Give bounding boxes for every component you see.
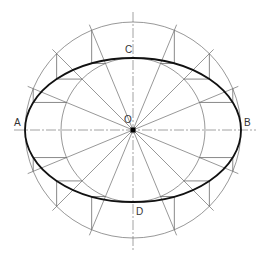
label-a: A	[14, 118, 21, 128]
ellipse-construction-diagram	[0, 0, 261, 264]
label-b: B	[244, 118, 251, 128]
center-point-marker	[131, 128, 136, 133]
label-c: C	[125, 45, 132, 55]
center-point	[131, 128, 136, 133]
label-d: D	[136, 207, 143, 217]
label-o: O	[124, 115, 132, 125]
